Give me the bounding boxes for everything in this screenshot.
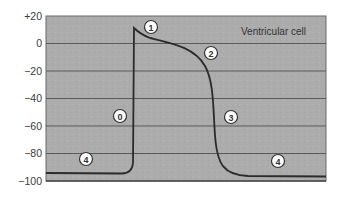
svg-text:2: 2 [208,49,213,59]
phase-badge-2: 2 [205,47,218,60]
svg-text:4: 4 [83,155,88,165]
y-tick-label: −60 [24,120,42,132]
y-tick-label: −80 [24,147,42,159]
phase-badge-4-left: 4 [80,153,93,166]
svg-text:3: 3 [228,113,233,123]
y-tick-label: 0 [36,37,42,49]
svg-text:4: 4 [275,157,280,167]
y-tick-label: −40 [24,92,42,104]
y-axis: +20 0 −20 −40 −60 −80 −100 [18,10,42,187]
y-tick-label: −100 [18,175,42,187]
action-potential-chart: +20 0 −20 −40 −60 −80 −100 Ventricular c… [0,0,346,197]
phase-badge-4-right: 4 [272,155,285,168]
y-tick-label: +20 [24,10,42,22]
svg-text:0: 0 [117,112,122,122]
phase-badge-1: 1 [145,21,158,34]
phase-badge-3: 3 [225,111,238,124]
chart-title: Ventricular cell [241,26,306,37]
y-tick-label: −20 [24,65,42,77]
phase-badge-0: 0 [114,110,127,123]
svg-text:1: 1 [148,23,153,33]
